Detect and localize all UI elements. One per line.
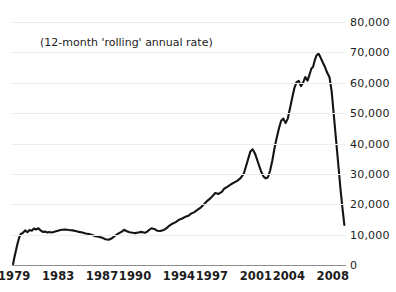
chart-container: 80,00070,00060,00050,00040,00030,00020,0… [0, 0, 396, 292]
x-axis-tick-label: 1997 [196, 269, 228, 283]
x-axis-tick-label: 1979 [0, 269, 30, 283]
gridline-20000 [12, 204, 346, 205]
x-axis-tick-label: 1994 [163, 269, 195, 283]
gridline-30000 [12, 174, 346, 175]
x-axis-tick-label: 1983 [42, 269, 74, 283]
y-axis-tick-label: 80,000 [350, 16, 390, 29]
gridline-70000 [12, 52, 346, 53]
y-axis-tick-label: 40,000 [350, 137, 390, 150]
y-axis-tick-label: 20,000 [350, 198, 390, 211]
y-axis-tick-label: 0 [350, 259, 357, 272]
gridline-0 [12, 265, 346, 266]
y-axis-tick-label: 30,000 [350, 167, 390, 180]
gridline-60000 [12, 83, 346, 84]
chart-annotation: (12-month 'rolling' annual rate) [40, 36, 213, 49]
y-axis-tick-label: 50,000 [350, 107, 390, 120]
x-axis-tick-label: 2001 [240, 269, 272, 283]
x-axis-tick-label: 1990 [119, 269, 151, 283]
y-axis-tick-label: 70,000 [350, 46, 390, 59]
y-axis-tick-label: 10,000 [350, 228, 390, 241]
y-axis-tick-label: 60,000 [350, 76, 390, 89]
gridline-80000 [12, 22, 346, 23]
x-axis-tick-label: 2008 [317, 269, 349, 283]
chart-ghost-title [14, 1, 344, 13]
gridline-40000 [12, 144, 346, 145]
gridline-10000 [12, 235, 346, 236]
x-axis-tick-label: 2004 [273, 269, 305, 283]
x-axis-tick-label: 1987 [86, 269, 118, 283]
gridline-50000 [12, 113, 346, 114]
series-line [13, 54, 344, 265]
